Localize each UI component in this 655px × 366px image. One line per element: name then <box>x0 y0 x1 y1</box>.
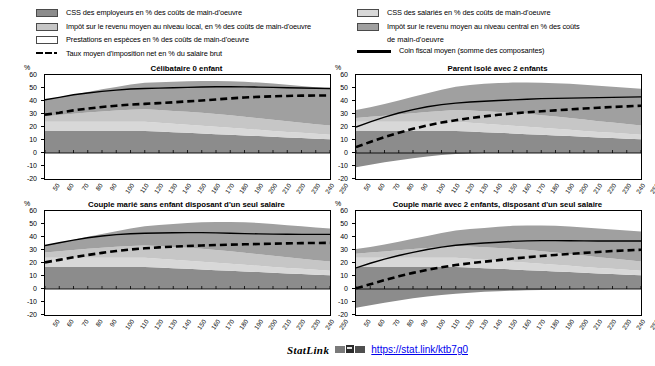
chart-title-3: Couple marié sans enfant disposant d'un … <box>44 200 329 209</box>
x-axis-tick-label: 250 <box>649 318 655 331</box>
legend-item-tax-wedge: Coin fiscal moyen (somme des composantes… <box>357 46 653 57</box>
y-axis-tick-label: 0 <box>22 285 37 292</box>
legend-label-employer-ssc: CSS des employeurs en % des coûts de mai… <box>66 8 242 17</box>
y-axis-tick-mark <box>41 100 44 101</box>
y-axis-tick-label: 20 <box>333 123 348 130</box>
x-axis-tick-label: 100 <box>435 182 447 195</box>
legend-label-net-tax-rate: Taux moyen d'imposition net en % du sala… <box>66 49 222 58</box>
y-axis-tick-label: 30 <box>333 246 348 253</box>
y-axis-tick-label: 40 <box>22 97 37 104</box>
x-axis-tick-label: 80 <box>405 182 415 192</box>
plot-area-3 <box>44 210 331 316</box>
x-axis-tick-label: 200 <box>577 318 589 331</box>
x-axis-tick-label: 160 <box>520 318 532 331</box>
x-axis-tick-label: 150 <box>195 182 207 195</box>
statlink-url[interactable]: https://stat.link/ktb7g0 <box>371 344 468 355</box>
y-axis-tick-label: 30 <box>22 246 37 253</box>
y-axis-tick-label: 50 <box>22 220 37 227</box>
y-axis-tick-label: 60 <box>22 207 37 214</box>
x-axis-tick-label: 180 <box>238 318 250 331</box>
y-axis-tick-mark <box>352 152 355 153</box>
x-axis-tick-label: 210 <box>281 318 293 331</box>
x-axis-tick-label: 170 <box>535 318 547 331</box>
x-axis-tick-label: 50 <box>51 182 61 192</box>
x-axis-tick-label: 160 <box>209 318 221 331</box>
x-axis-tick-label: 240 <box>634 318 646 331</box>
y-axis-tick-mark <box>41 165 44 166</box>
x-axis-tick-label: 230 <box>309 318 321 331</box>
y-axis-tick-mark <box>352 139 355 140</box>
x-axis-tick-label: 70 <box>391 182 401 192</box>
x-axis-tick-label: 70 <box>80 182 90 192</box>
y-axis-tick-label: -10 <box>333 162 348 169</box>
y-axis-tick-mark <box>41 113 44 114</box>
legend-item-central-income-tax: Impôt sur le revenu moyen au niveau cent… <box>357 22 653 33</box>
y-axis-tick-mark <box>41 178 44 179</box>
x-axis-tick-label: 170 <box>224 318 236 331</box>
y-axis-tick-label: 30 <box>333 110 348 117</box>
chart-title-2: Parent isolé avec 2 enfants <box>355 64 640 73</box>
x-axis-tick-label: 80 <box>405 318 415 328</box>
y-axis-tick-mark <box>41 87 44 88</box>
x-axis-tick-label: 50 <box>51 318 61 328</box>
x-axis-tick-label: 210 <box>281 182 293 195</box>
y-axis-tick-mark <box>41 223 44 224</box>
legend-swatch-central-income-tax <box>357 23 379 31</box>
statlink-footer: StatLink https://stat.link/ktb7g0 <box>0 340 655 358</box>
y-axis-tick-label: 20 <box>22 123 37 130</box>
y-axis-tick-mark <box>41 139 44 140</box>
x-axis-tick-label: 100 <box>435 318 447 331</box>
x-axis-tick-label: 190 <box>563 182 575 195</box>
x-axis-tick-label: 230 <box>309 182 321 195</box>
x-axis-tick-label: 150 <box>506 318 518 331</box>
x-axis-tick-label: 170 <box>535 182 547 195</box>
y-axis-tick-mark <box>352 178 355 179</box>
x-axis-tick-label: 120 <box>463 182 475 195</box>
y-axis-tick-label: 40 <box>333 233 348 240</box>
y-axis-tick-label: 20 <box>333 259 348 266</box>
area-band-negative <box>356 153 641 167</box>
y-axis-tick-mark <box>352 223 355 224</box>
y-axis-tick-label: 60 <box>333 207 348 214</box>
x-axis-tick-label: 110 <box>449 318 461 330</box>
y-axis-tick-mark <box>352 262 355 263</box>
y-axis-tick-mark <box>41 275 44 276</box>
chart-panel-2: Parent isolé avec 2 enfants%605040302010… <box>333 64 652 216</box>
x-axis-tick-label: 60 <box>376 318 386 328</box>
y-axis-tick-label: 60 <box>22 71 37 78</box>
legend-swatch-employer-ssc <box>36 9 58 17</box>
y-axis-tick-label: 10 <box>333 136 348 143</box>
y-axis-tick-mark <box>352 100 355 101</box>
y-axis-tick-mark <box>352 288 355 289</box>
x-axis-tick-label: 200 <box>577 182 589 195</box>
x-axis-tick-label: 190 <box>252 318 264 331</box>
x-axis-tick-label: 240 <box>634 182 646 195</box>
x-axis-tick-label: 190 <box>563 318 575 331</box>
x-axis-tick-label: 70 <box>80 318 90 328</box>
x-axis-tick-label: 110 <box>138 182 150 194</box>
y-axis-tick-label: 30 <box>22 110 37 117</box>
plot-area-2 <box>355 74 642 180</box>
x-axis-tick-label: 60 <box>376 182 386 192</box>
y-axis-tick-label: -20 <box>22 175 37 182</box>
y-axis-tick-label: 10 <box>22 272 37 279</box>
y-axis-tick-label: -10 <box>22 298 37 305</box>
y-axis-tick-mark <box>41 314 44 315</box>
x-axis-tick-label: 90 <box>419 318 429 328</box>
legend-label-local-income-tax: Impôt sur le revenu moyen au niveau loca… <box>66 22 311 31</box>
solid-line-icon <box>357 50 391 53</box>
x-axis-tick-label: 110 <box>138 318 150 330</box>
y-axis-tick-label: 60 <box>333 71 348 78</box>
y-axis-tick-mark <box>41 126 44 127</box>
x-axis-tick-label: 100 <box>124 182 136 195</box>
x-axis-tick-label: 80 <box>94 182 104 192</box>
y-axis-tick-mark <box>352 113 355 114</box>
legend-item-employer-ssc: CSS des employeurs en % des coûts de mai… <box>36 8 336 19</box>
legend-swatch-cash-benefits <box>36 36 58 44</box>
x-axis-tick-label: 250 <box>649 182 655 195</box>
x-axis-tick-label: 140 <box>492 318 504 331</box>
x-axis-tick-label: 160 <box>520 182 532 195</box>
legend-label-employee-ssc: CSS des salariés en % des coûts de main-… <box>387 8 550 17</box>
y-axis-tick-mark <box>41 152 44 153</box>
y-axis-tick-label: 10 <box>333 272 348 279</box>
